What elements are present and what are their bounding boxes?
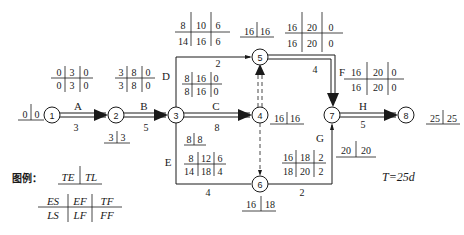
svg-text:3: 3 bbox=[121, 132, 126, 143]
node-3-times: 8 8 bbox=[184, 133, 206, 145]
svg-text:16: 16 bbox=[351, 82, 361, 93]
svg-text:8: 8 bbox=[185, 73, 190, 84]
node-3: 3 bbox=[168, 107, 184, 123]
svg-text:16: 16 bbox=[244, 26, 254, 37]
svg-text:18: 18 bbox=[300, 152, 310, 163]
activity-h-arrow bbox=[340, 109, 398, 121]
svg-text:0: 0 bbox=[35, 109, 40, 120]
legend-es: ES bbox=[46, 195, 60, 207]
activity-d-name: D bbox=[162, 70, 170, 82]
node-8-times: 25 25 bbox=[426, 110, 460, 124]
svg-text:20: 20 bbox=[307, 22, 317, 33]
legend-ls: LS bbox=[46, 209, 59, 221]
svg-text:16: 16 bbox=[196, 73, 206, 84]
activity-g-name: G bbox=[316, 132, 324, 144]
activity-a-times: 0 3 0 0 3 0 bbox=[51, 66, 93, 92]
svg-text:0: 0 bbox=[214, 86, 219, 97]
activity-d-duration: 2 bbox=[216, 58, 221, 69]
node-2: 2 bbox=[108, 107, 124, 123]
node-5: 5 bbox=[252, 49, 268, 65]
svg-text:0: 0 bbox=[329, 38, 334, 49]
activity-h-duration: 5 bbox=[361, 119, 366, 130]
node-2-times: 3 3 bbox=[104, 131, 130, 143]
activity-d-times: 8 10 6 14 16 6 bbox=[175, 12, 230, 47]
activity-e-duration: 4 bbox=[206, 187, 211, 198]
svg-text:16: 16 bbox=[290, 113, 300, 124]
activity-b-duration: 5 bbox=[144, 122, 149, 133]
activity-f-duration: 4 bbox=[313, 64, 318, 75]
legend-tf: TF bbox=[101, 195, 114, 207]
svg-text:0: 0 bbox=[84, 80, 89, 91]
activity-a-duration: 3 bbox=[74, 122, 79, 133]
svg-text:16: 16 bbox=[351, 67, 361, 78]
svg-text:8: 8 bbox=[185, 86, 190, 97]
svg-text:8: 8 bbox=[181, 20, 186, 31]
svg-text:7: 7 bbox=[329, 111, 334, 121]
svg-text:18: 18 bbox=[283, 166, 293, 177]
svg-text:16: 16 bbox=[260, 26, 270, 37]
svg-text:20: 20 bbox=[373, 82, 383, 93]
svg-text:2: 2 bbox=[113, 111, 118, 121]
svg-text:0: 0 bbox=[329, 22, 334, 33]
svg-text:12: 12 bbox=[201, 153, 211, 164]
svg-text:16: 16 bbox=[287, 38, 297, 49]
legend-label: 图例： bbox=[12, 172, 42, 184]
activity-c-duration: 8 bbox=[215, 122, 220, 133]
svg-text:16: 16 bbox=[196, 36, 206, 47]
svg-text:18: 18 bbox=[265, 199, 275, 210]
legend-tl: TL bbox=[85, 171, 97, 183]
activity-h-name: H bbox=[359, 100, 367, 112]
svg-text:14: 14 bbox=[178, 36, 188, 47]
activity-b-times: 3 8 0 3 8 0 bbox=[115, 66, 155, 92]
svg-text:20: 20 bbox=[341, 145, 351, 156]
legend-te: TE bbox=[62, 171, 75, 183]
legend-lf: LF bbox=[73, 209, 87, 221]
svg-text:0: 0 bbox=[84, 67, 89, 78]
svg-text:2: 2 bbox=[319, 166, 324, 177]
svg-text:14: 14 bbox=[184, 166, 194, 177]
svg-text:20: 20 bbox=[373, 67, 383, 78]
svg-text:2: 2 bbox=[319, 152, 324, 163]
activity-g-duration: 2 bbox=[300, 187, 305, 198]
svg-text:0: 0 bbox=[214, 73, 219, 84]
activity-g-times: 16 18 2 18 20 2 bbox=[282, 150, 326, 177]
activity-b-name: B bbox=[140, 100, 147, 112]
svg-text:3: 3 bbox=[70, 67, 75, 78]
node-4: 4 bbox=[252, 107, 268, 123]
svg-text:0: 0 bbox=[146, 80, 151, 91]
node-7: 7 bbox=[324, 107, 340, 123]
svg-text:16: 16 bbox=[196, 86, 206, 97]
svg-text:20: 20 bbox=[307, 38, 317, 49]
svg-text:0: 0 bbox=[57, 67, 62, 78]
svg-text:16: 16 bbox=[246, 199, 256, 210]
total-duration: T=25d bbox=[382, 170, 416, 184]
svg-text:8: 8 bbox=[403, 111, 408, 121]
activity-f-times: 16 20 0 16 20 0 bbox=[344, 62, 404, 95]
activity-a-name: A bbox=[74, 100, 82, 112]
svg-text:3: 3 bbox=[70, 80, 75, 91]
svg-text:6: 6 bbox=[218, 153, 223, 164]
svg-text:0: 0 bbox=[392, 67, 397, 78]
svg-text:8: 8 bbox=[198, 134, 203, 145]
svg-text:3: 3 bbox=[119, 67, 124, 78]
svg-text:6: 6 bbox=[216, 20, 221, 31]
legend: 图例： TE TL ES EF TF LS LF FF bbox=[12, 166, 122, 222]
svg-text:4: 4 bbox=[218, 166, 223, 177]
node-5-times: 16 16 bbox=[240, 22, 274, 37]
svg-text:0: 0 bbox=[392, 82, 397, 93]
dummy-4-5-arrow bbox=[255, 64, 265, 107]
svg-text:25: 25 bbox=[447, 113, 457, 124]
dummy-4-6-arrow bbox=[258, 123, 262, 176]
svg-text:10: 10 bbox=[196, 20, 206, 31]
svg-text:18: 18 bbox=[201, 166, 211, 177]
svg-text:0: 0 bbox=[146, 67, 151, 78]
svg-text:0: 0 bbox=[23, 109, 28, 120]
activity-e-times: 8 12 6 14 18 4 bbox=[184, 152, 226, 177]
activity-f-times-top: 16 20 0 16 20 0 bbox=[285, 12, 343, 52]
svg-text:6: 6 bbox=[257, 180, 262, 190]
svg-text:20: 20 bbox=[361, 145, 371, 156]
svg-text:25: 25 bbox=[430, 113, 440, 124]
svg-text:16: 16 bbox=[287, 22, 297, 33]
activity-e-name: E bbox=[165, 156, 172, 168]
svg-text:3: 3 bbox=[173, 111, 178, 121]
